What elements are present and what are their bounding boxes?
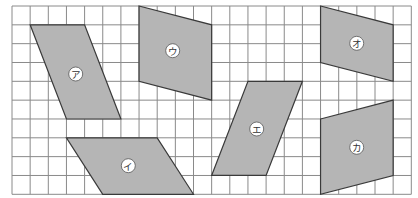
label-text: イ [123,161,133,172]
shape-label-e: エ [250,122,264,136]
label-text: ウ [168,46,178,57]
label-text: エ [252,124,262,135]
shape-label-i: イ [121,159,135,173]
shape-label-o: オ [350,36,364,50]
shape-label-a: ア [69,67,83,81]
label-text: オ [352,38,362,49]
shape-label-u: ウ [166,44,180,58]
label-text: ア [71,69,81,80]
shape-label-ka: カ [350,140,364,154]
label-text: カ [352,142,362,153]
grid-figure: アイウエオカ [0,0,418,198]
